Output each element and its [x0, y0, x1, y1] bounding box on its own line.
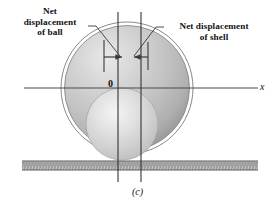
label-ball-line-3: of ball — [8, 27, 92, 38]
label-net-displacement-of-shell: Net displacement of shell — [160, 21, 268, 42]
inner-ball-sphere — [86, 88, 158, 160]
figure-container: Net displacement of ball Net displacemen… — [0, 0, 275, 208]
origin-label: 0 — [108, 78, 113, 89]
x-axis-label: x — [260, 81, 264, 92]
label-shell-line-2: of shell — [160, 32, 268, 43]
figure-caption: (c) — [0, 186, 275, 197]
ground-strip — [22, 161, 258, 170]
label-net-displacement-of-ball: Net displacement of ball — [8, 6, 92, 38]
label-ball-line-2: displacement — [8, 17, 92, 28]
label-ball-line-1: Net — [8, 6, 92, 17]
label-shell-line-1: Net displacement — [160, 21, 268, 32]
